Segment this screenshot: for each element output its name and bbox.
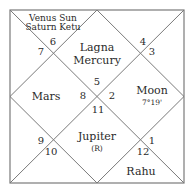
mercury-label: Mercury <box>73 55 121 66</box>
jupiter-label: Jupiter <box>78 131 116 142</box>
sign-number-house12: 6 <box>50 37 56 47</box>
sign-number-house4: 2 <box>109 91 115 101</box>
lagna-label: Lagna <box>80 42 115 53</box>
house12-planets-line2: Saturn Ketu <box>25 23 80 32</box>
jupiter-retrograde: (R) <box>91 145 103 153</box>
sign-number-house9: 9 <box>38 136 44 146</box>
sign-number-house2: 4 <box>140 37 146 47</box>
birth-chart: Venus Sun Saturn Ketu Lagna Mercury Mars… <box>0 0 191 190</box>
sign-number-house1: 5 <box>94 77 100 87</box>
sign-number-house3: 3 <box>149 47 155 57</box>
sign-number-house8: 10 <box>45 147 58 157</box>
moon-degree: 7°19' <box>142 99 162 107</box>
mars-label: Mars <box>32 91 61 102</box>
sign-number-house11: 7 <box>38 47 44 57</box>
sign-number-house6: 12 <box>137 147 150 157</box>
sign-number-house5: 1 <box>149 136 155 146</box>
moon-label: Moon <box>136 85 168 96</box>
sign-number-house7: 11 <box>92 105 105 115</box>
sign-number-house10: 8 <box>80 91 86 101</box>
rahu-label: Rahu <box>126 166 155 177</box>
